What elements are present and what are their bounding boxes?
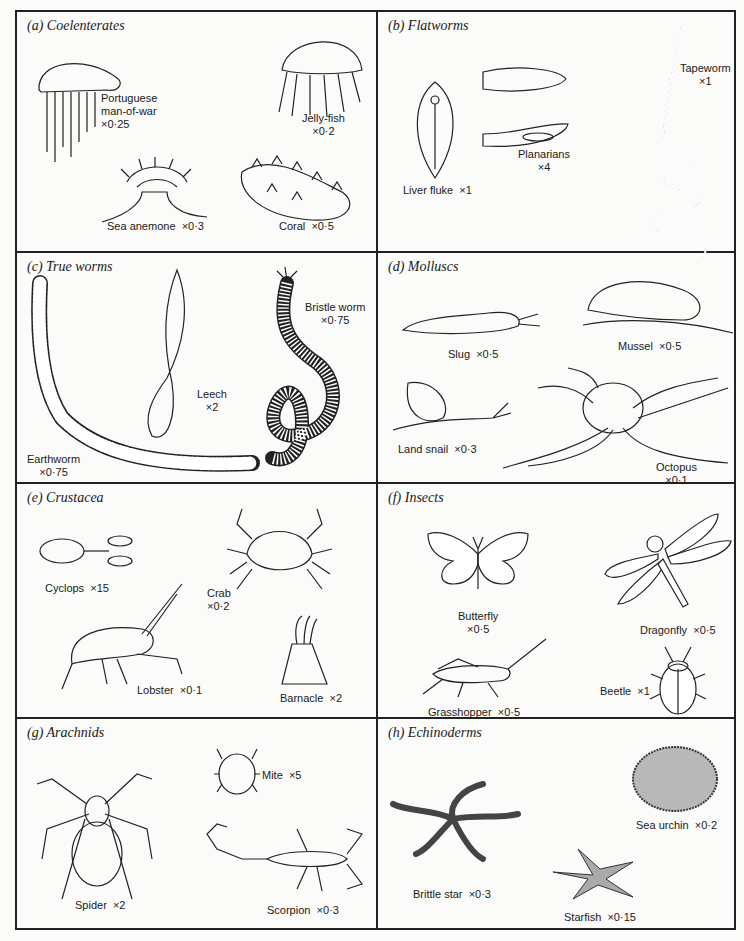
label-jelly-fish: Jelly-fish×0·2 bbox=[302, 112, 345, 138]
coral-illustration bbox=[232, 142, 362, 222]
panel-title: (a) Coelenterates bbox=[27, 18, 125, 34]
panel-flatworms: (b) Flatworms Liver fluke ×1 Planarians×… bbox=[378, 12, 734, 251]
label-mussel: Mussel ×0·5 bbox=[618, 340, 681, 353]
label-lobster: Lobster ×0·1 bbox=[137, 684, 202, 697]
panel-title: (g) Arachnids bbox=[27, 725, 104, 741]
panel-title: (e) Crustacea bbox=[27, 490, 104, 506]
land-snail-illustration bbox=[393, 378, 513, 438]
panel-arachnids: (g) Arachnids Mite ×5 Spider ×2 Scorpion… bbox=[17, 719, 376, 930]
grasshopper-illustration bbox=[418, 639, 548, 699]
label-beetle: Beetle ×1 bbox=[600, 685, 650, 698]
panel-title: (c) True worms bbox=[27, 259, 113, 275]
scorpion-illustration bbox=[187, 819, 367, 899]
starfish-illustration bbox=[548, 847, 643, 902]
label-earthworm: Earthworm×0·75 bbox=[27, 453, 80, 479]
mite-illustration bbox=[212, 739, 262, 799]
panel-title: (b) Flatworms bbox=[388, 18, 469, 34]
liver-fluke-illustration bbox=[408, 80, 463, 180]
cyclops-illustration bbox=[32, 529, 142, 574]
panel-echinoderms: (h) Echinoderms Sea urchin ×0·2 Brittle … bbox=[378, 719, 734, 930]
panel-true-worms: (c) True worms Earthworm×0·75 Leech×2 Br… bbox=[17, 253, 376, 482]
sea-anemone-illustration bbox=[97, 157, 207, 227]
label-spider: Spider ×2 bbox=[75, 899, 125, 912]
label-dragonfly: Dragonfly ×0·5 bbox=[640, 624, 716, 637]
panel-coelenterates: (a) Coelenterates Portugueseman-of-war×0… bbox=[17, 12, 376, 251]
label-planarians: Planarians×4 bbox=[518, 148, 570, 174]
label-leech: Leech×2 bbox=[197, 388, 227, 414]
butterfly-illustration bbox=[423, 529, 533, 594]
label-mite: Mite ×5 bbox=[262, 769, 301, 782]
label-tapeworm: Tapeworm×1 bbox=[680, 62, 731, 88]
spider-illustration bbox=[37, 769, 157, 909]
label-grasshopper: Grasshopper ×0·5 bbox=[428, 706, 520, 719]
leech-illustration bbox=[132, 268, 202, 443]
label-portuguese-man-of-war: Portugueseman-of-war×0·25 bbox=[101, 92, 157, 131]
label-sea-anemone: Sea anemone ×0·3 bbox=[107, 220, 204, 233]
panel-title: (h) Echinoderms bbox=[388, 725, 482, 741]
label-slug: Slug ×0·5 bbox=[448, 348, 498, 361]
barnacle-illustration bbox=[272, 614, 332, 689]
label-sea-urchin: Sea urchin ×0·2 bbox=[636, 819, 717, 832]
label-crab: Crab×0·2 bbox=[207, 587, 231, 613]
dragonfly-illustration bbox=[603, 509, 733, 614]
sea-urchin-illustration bbox=[628, 739, 723, 814]
label-liver-fluke: Liver fluke ×1 bbox=[403, 184, 472, 197]
label-brittle-star: Brittle star ×0·3 bbox=[413, 888, 491, 901]
panel-molluscs: (d) Molluscs Slug ×0·5 Mussel ×0·5 Land … bbox=[378, 253, 734, 482]
bristle-worm-illustration bbox=[247, 263, 367, 478]
brittle-star-illustration bbox=[388, 774, 523, 869]
mussel-illustration bbox=[583, 275, 733, 335]
jelly-fish-illustration bbox=[272, 30, 372, 120]
octopus-illustration bbox=[498, 368, 738, 478]
label-coral: Coral ×0·5 bbox=[279, 220, 334, 233]
label-barnacle: Barnacle ×2 bbox=[280, 692, 342, 705]
crab-illustration bbox=[222, 504, 337, 599]
planarians-illustration bbox=[478, 64, 573, 159]
label-bristle-worm: Bristle worm×0·75 bbox=[305, 301, 366, 327]
label-starfish: Starfish ×0·15 bbox=[564, 911, 636, 924]
label-scorpion: Scorpion ×0·3 bbox=[267, 904, 339, 917]
label-butterfly: Butterfly×0·5 bbox=[458, 610, 498, 636]
panel-crustacea: (e) Crustacea Cyclops ×15 Crab×0·2 Lobst… bbox=[17, 484, 376, 717]
tapeworm-illustration bbox=[633, 22, 733, 257]
panel-insects: (f) Insects Butterfly×0·5 Dragonfly ×0·5… bbox=[378, 484, 734, 717]
label-land-snail: Land snail ×0·3 bbox=[398, 443, 477, 456]
lobster-illustration bbox=[52, 584, 182, 694]
beetle-illustration bbox=[648, 644, 708, 719]
panel-title: (d) Molluscs bbox=[388, 259, 458, 275]
panel-title: (f) Insects bbox=[388, 490, 444, 506]
slug-illustration bbox=[398, 308, 543, 338]
